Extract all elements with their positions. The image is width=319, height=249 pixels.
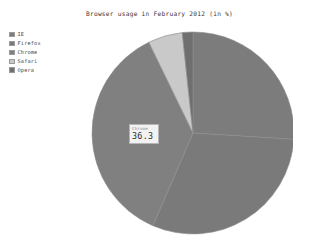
legend-swatch-opera: [9, 67, 15, 73]
legend-label-chrome: Chrome: [18, 48, 38, 57]
chart-screenshot: Browser usage in February 2012 (in %) IE…: [0, 0, 319, 249]
pie-chart-area: [88, 30, 293, 235]
legend-item-firefox[interactable]: Firefox: [9, 39, 61, 48]
legend-swatch-ie: [9, 32, 15, 38]
legend-label-safari: Safari: [18, 57, 38, 66]
legend-item-opera[interactable]: Opera: [9, 66, 61, 75]
legend-swatch-chrome: [9, 50, 15, 56]
legend-label-firefox: Firefox: [18, 39, 41, 48]
legend-item-ie[interactable]: IE: [9, 30, 61, 39]
legend-swatch-safari: [9, 59, 15, 65]
legend-label-opera: Opera: [18, 66, 35, 75]
chart-legend: IE Firefox Chrome Safari Opera: [9, 30, 61, 75]
legend-label-ie: IE: [18, 30, 25, 39]
legend-swatch-firefox: [9, 41, 15, 47]
data-label-callout: Chrome 36.3: [129, 124, 159, 144]
legend-item-chrome[interactable]: Chrome: [9, 48, 61, 57]
data-label-value: 36.3: [132, 131, 158, 141]
pie-chart-svg: [88, 30, 293, 235]
legend-item-safari[interactable]: Safari: [9, 57, 61, 66]
pie-slice-ie[interactable]: [193, 32, 293, 139]
chart-title: Browser usage in February 2012 (in %): [0, 10, 319, 17]
